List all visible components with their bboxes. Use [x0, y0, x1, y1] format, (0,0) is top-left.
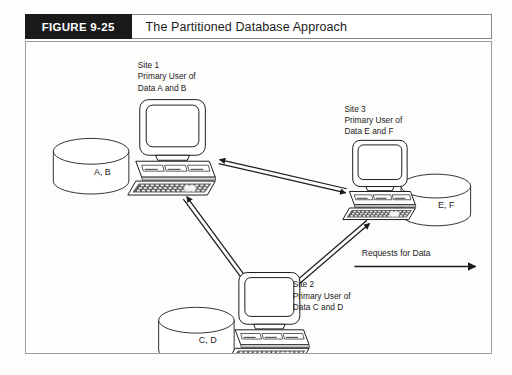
- key: [240, 352, 243, 353]
- figure-container: FIGURE 9-25 The Partitioned Database App…: [0, 0, 512, 375]
- system-unit-base: [354, 205, 415, 207]
- key: [272, 352, 275, 353]
- key: [172, 190, 175, 192]
- database-cylinder: A, B: [53, 138, 129, 194]
- key: [406, 213, 408, 214]
- key: [144, 187, 147, 189]
- monitor-stand: [156, 155, 190, 160]
- arrow-forward: [219, 164, 346, 193]
- key: [295, 352, 298, 353]
- figure-body-frame: A, BE, FC, D Site 1Primary User ofData A…: [25, 41, 492, 354]
- key: [167, 190, 170, 192]
- cylinder-top: [159, 307, 235, 333]
- key: [360, 213, 362, 214]
- key: [378, 211, 380, 212]
- key: [179, 187, 182, 189]
- key: [403, 211, 405, 212]
- key: [142, 190, 145, 192]
- key: [407, 211, 409, 212]
- key: [176, 185, 179, 187]
- site-label-site-3: Site 3Primary User ofData E and F: [344, 104, 403, 137]
- computer-site-3: [343, 140, 416, 219]
- legend-requests-for-data: Requests for Data: [354, 248, 475, 267]
- partitioned-database-diagram: A, BE, FC, D Site 1Primary User ofData A…: [26, 42, 491, 353]
- database-cylinder: C, D: [159, 307, 235, 353]
- site-label-line: Data E and F: [344, 126, 393, 136]
- key: [404, 215, 406, 216]
- key: [383, 215, 385, 216]
- site-label-line: Site 3: [344, 104, 366, 114]
- database-label: E, F: [438, 200, 455, 210]
- site-label-line: Site 2: [293, 279, 315, 289]
- site-label-line: Primary User of: [293, 291, 352, 301]
- key: [171, 185, 174, 187]
- database-label: C, D: [199, 335, 217, 345]
- monitor-screen: [245, 278, 294, 317]
- key: [156, 185, 159, 187]
- key: [161, 185, 164, 187]
- site-label-line: Primary User of: [138, 71, 197, 81]
- key: [354, 211, 356, 212]
- site-label-line: Primary User of: [344, 115, 403, 125]
- key: [387, 211, 389, 212]
- key: [200, 185, 203, 187]
- key: [362, 211, 364, 212]
- key: [198, 187, 201, 189]
- key: [202, 190, 205, 192]
- key: [381, 213, 383, 214]
- monitor-screen: [358, 145, 402, 180]
- key: [164, 187, 167, 189]
- site-label-line: Data A and B: [138, 83, 187, 93]
- key: [356, 213, 358, 214]
- figure-number-badge: FIGURE 9-25: [25, 14, 132, 40]
- key: [379, 215, 381, 216]
- key: [382, 211, 384, 212]
- figure-title: The Partitioned Database Approach: [132, 15, 347, 38]
- key: [154, 187, 157, 189]
- key: [385, 213, 387, 214]
- key: [195, 185, 198, 187]
- drive-bay: [241, 334, 262, 340]
- drive-bay: [262, 334, 283, 340]
- drive-bay: [165, 165, 187, 171]
- key: [166, 185, 169, 187]
- key: [157, 190, 160, 192]
- key: [147, 190, 150, 192]
- site-label-site-1: Site 1Primary User ofData A and B: [138, 60, 197, 93]
- key: [197, 190, 200, 192]
- key: [375, 215, 377, 216]
- key: [377, 213, 379, 214]
- keypad: [390, 212, 399, 217]
- key: [205, 185, 208, 187]
- drive-bay: [283, 334, 304, 340]
- drive-bay: [142, 165, 164, 171]
- key: [352, 213, 354, 214]
- drive-bay: [187, 165, 209, 171]
- key: [366, 211, 368, 212]
- key: [367, 215, 369, 216]
- arrow-reverse: [220, 160, 347, 189]
- keypad: [184, 185, 195, 191]
- key: [152, 190, 155, 192]
- key: [373, 213, 375, 214]
- monitor-stand: [366, 187, 394, 191]
- key: [203, 187, 206, 189]
- system-unit-base: [241, 345, 310, 348]
- key: [149, 187, 152, 189]
- key: [277, 352, 280, 353]
- key: [358, 211, 360, 212]
- key: [137, 190, 140, 192]
- key: [370, 211, 372, 212]
- monitor-screen: [146, 105, 199, 147]
- key: [159, 187, 162, 189]
- key: [363, 215, 365, 216]
- key: [139, 187, 142, 189]
- key: [368, 213, 370, 214]
- key: [359, 215, 361, 216]
- key: [374, 211, 376, 212]
- key: [355, 215, 357, 216]
- key: [141, 185, 144, 187]
- key: [388, 215, 390, 216]
- link-site1-site3: [219, 160, 347, 193]
- site-label-line: Site 1: [138, 60, 160, 70]
